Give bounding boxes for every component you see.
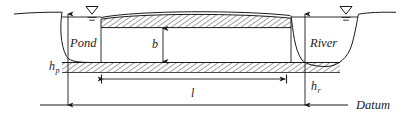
river-head-base: h bbox=[311, 79, 317, 93]
svg-text:hr: hr bbox=[311, 79, 322, 95]
aquifer-thickness-label: b bbox=[152, 37, 158, 51]
river-label: River bbox=[309, 36, 337, 50]
pond-head-label: hp bbox=[49, 59, 60, 75]
ground-surface-right bbox=[359, 12, 397, 14]
figure-canvas: Pond River Datum b l hp hr bbox=[0, 0, 402, 122]
pond-label: Pond bbox=[69, 36, 97, 50]
groundwater-cross-section-figure: Pond River Datum b l hp hr bbox=[0, 0, 402, 122]
flow-length-dimension bbox=[102, 75, 287, 84]
river-head-subscript: r bbox=[318, 86, 322, 95]
flow-length-label: l bbox=[191, 86, 195, 100]
river-water-table-icon bbox=[340, 7, 352, 21]
svg-text:hp: hp bbox=[49, 59, 60, 75]
pond-head-subscript: p bbox=[55, 66, 60, 75]
ground-surface-left bbox=[14, 12, 62, 14]
pond-water-table-icon bbox=[86, 7, 98, 21]
lower-aquitard-layer bbox=[62, 63, 340, 73]
upper-confining-layer bbox=[101, 14, 291, 27]
datum-label: Datum bbox=[355, 98, 390, 112]
aquifer-layer bbox=[101, 28, 291, 63]
pond-head-base: h bbox=[49, 59, 55, 73]
river-head-label: hr bbox=[311, 79, 322, 95]
